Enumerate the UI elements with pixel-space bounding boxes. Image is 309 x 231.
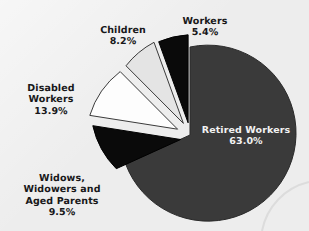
pie-label-widows-percent: 9.5%: [10, 207, 114, 218]
pie-label-workers-percent: 5.4%: [168, 27, 242, 38]
pie-label-widows-text: Widows, Widowers and Aged Parents: [23, 173, 100, 206]
pie-label-disabled-workers: Disabled Workers 13.9%: [4, 72, 98, 128]
pie-chart-figure: Workers 5.4% Children 8.2% Disabled Work…: [0, 0, 309, 231]
pie-label-workers-text: Workers: [183, 16, 228, 27]
pie-label-widows-widowers-aged-parents: Widows, Widowers and Aged Parents 9.5%: [10, 162, 114, 229]
pie-label-disabled-workers-text: Disabled Workers: [27, 83, 74, 105]
pie-label-disabled-workers-percent: 13.9%: [4, 106, 98, 117]
pie-label-children: Children 8.2%: [86, 14, 160, 59]
pie-label-workers: Workers 5.4%: [168, 5, 242, 50]
pie-label-retired-workers-text: Retired Workers: [202, 124, 291, 135]
pie-label-retired-workers-percent: 63.0%: [229, 135, 262, 146]
pie-label-children-text: Children: [100, 25, 146, 36]
pie-label-retired-workers: Retired Workers 63.0%: [196, 113, 296, 147]
pie-label-children-percent: 8.2%: [86, 36, 160, 47]
